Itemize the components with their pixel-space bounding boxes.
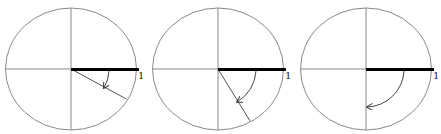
circle-panel-2: 1 — [153, 8, 292, 130]
rotation-arrow-icon — [367, 71, 404, 107]
unit-circle-figure: 111 — [0, 0, 441, 134]
unit-label: 1 — [285, 70, 291, 81]
rotation-arrow-icon — [104, 71, 109, 88]
unit-label: 1 — [433, 70, 439, 81]
circle-panel-1: 1 — [6, 8, 145, 130]
circle-panel-3: 1 — [301, 8, 440, 130]
unit-label: 1 — [138, 70, 144, 81]
rotation-arrow-icon — [237, 71, 256, 102]
rotated-ray — [71, 69, 126, 99]
